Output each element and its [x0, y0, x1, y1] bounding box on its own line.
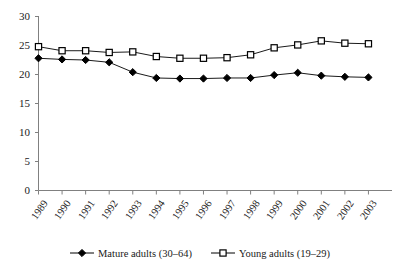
filled-diamond-marker — [78, 249, 85, 256]
chart-legend: Mature adults (30–64)Young adults (19–29… — [0, 247, 399, 259]
filled-diamond-marker — [318, 72, 325, 79]
open-square-marker — [210, 247, 236, 259]
filled-diamond-marker — [294, 69, 301, 76]
open-square-marker — [318, 38, 324, 44]
legend-label: Young adults (19–29) — [239, 248, 330, 259]
filled-diamond-marker — [247, 74, 254, 81]
y-axis-tick-label: 20 — [8, 69, 30, 80]
open-square-marker — [83, 48, 89, 54]
filled-diamond-marker — [129, 69, 136, 76]
open-square-marker — [130, 49, 136, 55]
y-axis-ticks — [35, 17, 39, 191]
legend-entry-1[interactable]: Mature adults (30–64) — [69, 247, 192, 259]
open-square-marker — [342, 40, 348, 46]
open-square-marker — [220, 250, 226, 256]
open-square-marker — [106, 49, 112, 55]
open-square-marker — [365, 41, 371, 47]
filled-diamond-marker — [176, 75, 183, 82]
open-square-marker — [59, 48, 65, 54]
filled-diamond-marker — [153, 74, 160, 81]
filled-diamond-marker — [35, 55, 42, 62]
plot-area — [0, 0, 399, 271]
filled-diamond-marker — [69, 247, 95, 259]
y-axis-tick-label: 15 — [8, 98, 30, 109]
filled-diamond-marker — [58, 56, 65, 63]
x-axis-ticks — [39, 191, 369, 195]
filled-diamond-marker — [82, 56, 89, 63]
open-square-marker — [200, 55, 206, 61]
filled-diamond-marker — [200, 75, 207, 82]
open-square-marker — [35, 44, 41, 50]
open-square-marker — [224, 55, 230, 61]
line-chart: 051015202530 198919901991199219931994199… — [0, 0, 399, 271]
open-square-marker — [177, 55, 183, 61]
y-axis-tick-label: 0 — [8, 185, 30, 196]
y-axis-tick-label: 30 — [8, 11, 30, 22]
y-axis-tick-label: 10 — [8, 127, 30, 138]
open-square-marker — [153, 53, 159, 59]
legend-entry-2[interactable]: Young adults (19–29) — [210, 247, 330, 259]
filled-diamond-marker — [341, 73, 348, 80]
open-square-marker — [248, 52, 254, 58]
filled-diamond-marker — [223, 74, 230, 81]
filled-diamond-marker — [271, 71, 278, 78]
open-square-marker — [295, 42, 301, 48]
data-series-layer — [35, 38, 372, 82]
open-square-marker — [271, 45, 277, 51]
legend-label: Mature adults (30–64) — [98, 248, 192, 259]
filled-diamond-marker — [106, 59, 113, 66]
y-axis-tick-label: 5 — [8, 156, 30, 167]
filled-diamond-marker — [365, 74, 372, 81]
y-axis-tick-label: 25 — [8, 40, 30, 51]
